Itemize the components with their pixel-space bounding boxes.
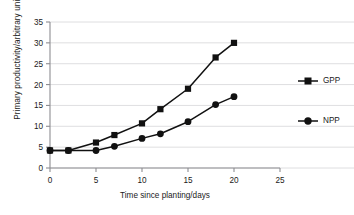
data-point-npp (111, 143, 118, 150)
y-tick-label: 20 (34, 81, 44, 90)
data-point-gpp (213, 54, 219, 60)
legend-label-gpp: GPP (323, 77, 340, 85)
x-tick-label: 5 (94, 176, 99, 185)
y-tick-label: 25 (34, 60, 44, 69)
data-point-npp (212, 101, 219, 108)
data-point-npp (65, 147, 72, 154)
y-tick-label: 35 (34, 18, 44, 27)
data-point-gpp (231, 40, 237, 46)
data-series-group (47, 40, 238, 154)
y-tick-label: 0 (38, 164, 43, 173)
legend-item-gpp[interactable]: GPP (297, 75, 340, 87)
data-point-npp (93, 147, 100, 154)
chart-figure: Primary productivity/arbitrary units 051… (0, 0, 354, 215)
plot-area: 051015202530350510152025 (0, 0, 354, 215)
data-point-npp (47, 147, 54, 154)
data-point-gpp (157, 106, 163, 112)
y-tick-label: 10 (34, 122, 44, 131)
y-tick-label: 15 (34, 101, 44, 110)
tick-marks-group (46, 22, 280, 172)
x-tick-label: 15 (183, 176, 193, 185)
data-point-gpp (185, 86, 191, 92)
legend-item-npp[interactable]: NPP (297, 115, 340, 127)
legend-label-npp: NPP (323, 117, 340, 125)
x-tick-label: 25 (275, 176, 285, 185)
x-axis-title: Time since planting/days (50, 191, 280, 200)
data-point-npp (231, 93, 238, 100)
legend-marker-square-icon (297, 75, 319, 87)
data-point-gpp (139, 120, 145, 126)
data-point-npp (185, 118, 192, 125)
y-tick-label: 30 (34, 39, 44, 48)
x-tick-label: 10 (137, 176, 147, 185)
data-point-npp (139, 135, 146, 142)
x-tick-label: 0 (48, 176, 53, 185)
y-tick-label: 5 (38, 143, 43, 152)
data-point-gpp (111, 132, 117, 138)
gridlines-group (50, 22, 354, 168)
data-point-npp (157, 130, 164, 137)
series-line-gpp (50, 43, 234, 151)
data-point-gpp (93, 139, 99, 145)
x-tick-label: 20 (229, 176, 239, 185)
legend-marker-circle-icon (297, 115, 319, 127)
